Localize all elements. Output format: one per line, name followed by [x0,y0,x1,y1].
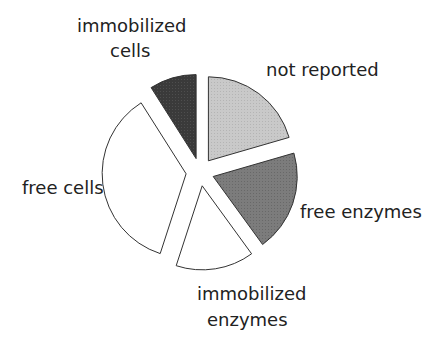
slice-label-immobilized-cells: immobilized [77,15,186,36]
slice-label-immobilized-enzymes: enzymes [207,309,288,330]
slice-label-free-enzymes: free enzymes [300,201,422,222]
pie-slice-not-reported [208,77,289,161]
slice-label-immobilized-cells: cells [110,40,150,61]
pie-chart: not reportedfree enzymesimmobilizedenzym… [0,0,441,350]
slice-label-free-cells: free cells [22,177,104,198]
slice-labels: not reportedfree enzymesimmobilizedenzym… [22,15,422,330]
pie-slice-free-cells [102,103,186,254]
slice-label-immobilized-enzymes: immobilized [197,283,306,304]
slice-label-not-reported: not reported [266,59,379,80]
pie-slices [102,75,297,270]
